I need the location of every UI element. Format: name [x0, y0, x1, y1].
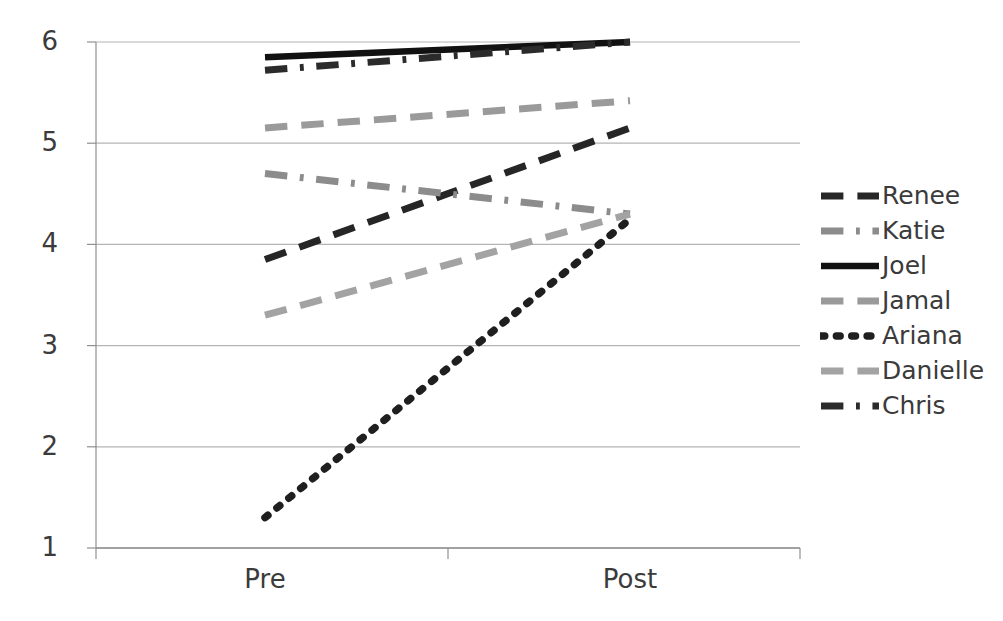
legend-label: Chris: [882, 393, 946, 418]
legend-label: Ariana: [882, 323, 963, 348]
legend-line-icon: [820, 292, 880, 310]
legend-line-icon: [820, 257, 880, 275]
legend-label: Jamal: [882, 288, 951, 313]
line-chart: 123456 PrePost ReneeKatieJoelJamalAriana…: [0, 0, 1003, 621]
legend-label: Renee: [882, 183, 960, 208]
x-tick-label-pre: Pre: [244, 566, 285, 592]
legend-item-ariana[interactable]: Ariana: [820, 318, 1000, 353]
legend-item-jamal[interactable]: Jamal: [820, 283, 1000, 318]
x-tick-label-post: Post: [603, 566, 657, 592]
legend-label: Joel: [882, 253, 927, 278]
legend-label: Katie: [882, 218, 945, 243]
legend-item-chris[interactable]: Chris: [820, 388, 1000, 423]
legend-line-icon: [820, 362, 880, 380]
legend-line-icon: [820, 397, 880, 415]
legend-item-renee[interactable]: Renee: [820, 178, 1000, 213]
legend: ReneeKatieJoelJamalArianaDanielleChris: [820, 178, 1000, 423]
legend-item-danielle[interactable]: Danielle: [820, 353, 1000, 388]
legend-line-icon: [820, 327, 880, 345]
legend-item-joel[interactable]: Joel: [820, 248, 1000, 283]
legend-line-icon: [820, 222, 880, 240]
legend-item-katie[interactable]: Katie: [820, 213, 1000, 248]
legend-label: Danielle: [882, 358, 984, 383]
legend-line-icon: [820, 187, 880, 205]
